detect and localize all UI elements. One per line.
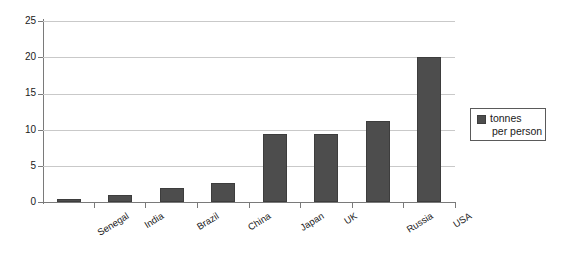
bar-chart: 25 20 15 10 5 0 Senegal Indi: [0, 0, 565, 262]
x-axis-label-china: China: [246, 210, 273, 232]
legend-entry-label: tonnes per person: [490, 112, 542, 138]
x-axis-label-usa: USA: [451, 210, 473, 230]
x-axis-tick-6: [352, 202, 353, 208]
y-axis-label-15: 15: [4, 88, 36, 98]
y-axis-label-20: 20: [4, 52, 36, 62]
gridline-25: [43, 21, 455, 22]
x-axis-tick-2: [145, 202, 146, 208]
x-axis-tick-3: [197, 202, 198, 208]
bar-japan: [263, 134, 287, 202]
x-axis-label-text: USA: [451, 210, 473, 230]
x-axis-label-text: Japan: [298, 210, 326, 233]
bar-china: [211, 183, 235, 202]
x-axis-tick-1: [94, 202, 95, 208]
bar-uk: [314, 134, 338, 202]
bar-india: [108, 195, 132, 202]
x-axis-label-text: Russia: [404, 210, 434, 235]
legend-label-line2: per person: [492, 125, 542, 138]
bar-brazil: [160, 188, 184, 202]
x-axis-tick-4: [249, 202, 250, 208]
x-axis-label-senegal: Senegal: [95, 210, 130, 238]
x-axis-label-text: China: [246, 210, 273, 232]
gridline-10: [43, 130, 455, 131]
legend-label-line1: tonnes: [490, 112, 522, 124]
y-axis-label-10: 10: [4, 125, 36, 135]
x-axis-label-text: UK: [342, 210, 359, 226]
x-axis-label-india: India: [142, 210, 165, 230]
x-axis-label-text: Brazil: [195, 210, 221, 232]
bar-senegal: [57, 199, 81, 202]
bar-russia: [366, 121, 390, 202]
x-axis-label-brazil: Brazil: [195, 210, 221, 232]
y-axis-labels: 25 20 15 10 5 0: [0, 0, 36, 262]
legend-swatch-icon: [477, 115, 486, 124]
x-axis-label-uk: UK: [342, 210, 359, 226]
gridline-15: [43, 94, 455, 95]
x-axis-tick-5: [300, 202, 301, 208]
y-axis-label-25: 25: [4, 16, 36, 26]
x-axis-label-russia: Russia: [404, 210, 434, 235]
y-axis-label-5: 5: [4, 161, 36, 171]
x-axis-label-text: Senegal: [95, 210, 130, 238]
gridline-20: [43, 57, 455, 58]
y-axis-label-0: 0: [4, 197, 36, 207]
x-axis-label-japan: Japan: [298, 210, 326, 233]
gridline-5: [43, 166, 455, 167]
plot-area: [43, 21, 455, 202]
bar-usa: [417, 57, 441, 202]
legend: tonnes per person: [470, 108, 546, 141]
x-axis-label-text: India: [142, 210, 165, 230]
x-axis-tick-7: [403, 202, 404, 208]
x-axis-tick-8: [455, 202, 456, 208]
